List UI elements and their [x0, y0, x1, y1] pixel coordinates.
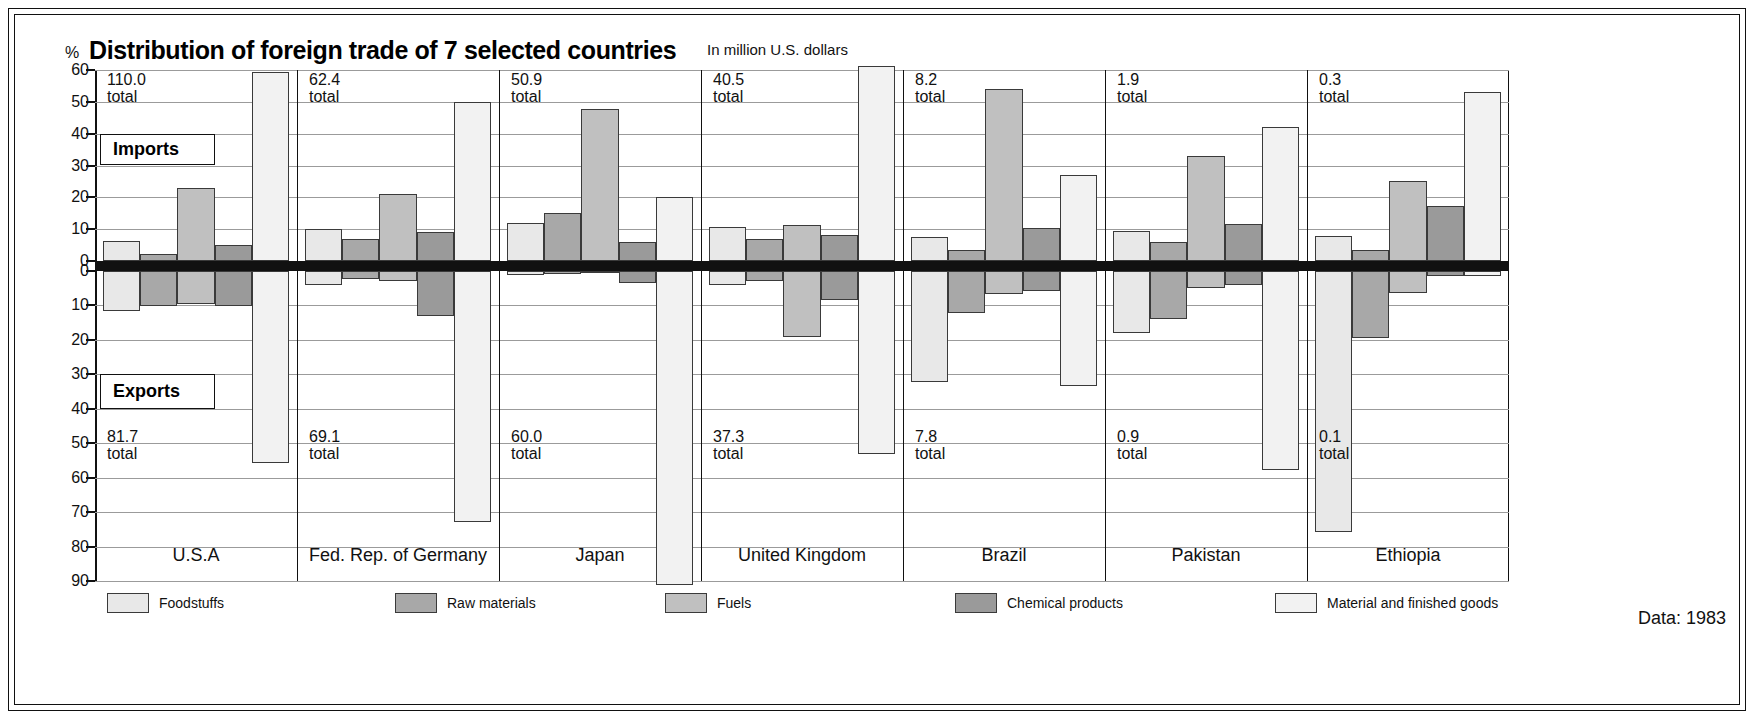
- export-bar: [1464, 271, 1501, 276]
- group-separator: [499, 70, 500, 581]
- y-axis-tick-mark: [86, 196, 95, 198]
- imports-total-label: 62.4total: [309, 72, 340, 106]
- export-bar: [821, 271, 858, 300]
- imports-total-value: 110.0: [107, 71, 146, 88]
- imports-total-value: 50.9: [511, 71, 542, 88]
- legend-label: Material and finished goods: [1327, 595, 1498, 611]
- legend-swatch: [1275, 593, 1317, 613]
- legend-label: Chemical products: [1007, 595, 1123, 611]
- export-bar: [858, 271, 895, 454]
- export-bar: [1060, 271, 1097, 386]
- imports-total-value: 8.2: [915, 71, 937, 88]
- import-bar: [417, 232, 454, 261]
- exports-total-suffix: total: [511, 445, 541, 462]
- imports-total-label: 50.9total: [511, 72, 542, 106]
- export-bar: [783, 271, 820, 337]
- export-bar: [656, 271, 693, 585]
- country-label: Fed. Rep. of Germany: [309, 545, 487, 566]
- group-separator: [1105, 70, 1106, 581]
- export-bar: [1113, 271, 1150, 333]
- import-bar: [379, 194, 416, 261]
- country-label: Pakistan: [1171, 545, 1240, 566]
- exports-total-suffix: total: [915, 445, 945, 462]
- exports-total-suffix: total: [1117, 445, 1147, 462]
- export-bar: [948, 271, 985, 313]
- group-separator: [297, 70, 298, 581]
- country-label: Ethiopia: [1375, 545, 1440, 566]
- import-bar: [783, 225, 820, 261]
- imports-badge-label: Imports: [113, 139, 179, 160]
- export-bar: [305, 271, 342, 285]
- import-bar: [1352, 250, 1389, 261]
- import-bar: [1187, 156, 1224, 261]
- page-subtitle: In million U.S. dollars: [707, 41, 848, 58]
- imports-total-suffix: total: [107, 88, 137, 105]
- imports-total-suffix: total: [309, 88, 339, 105]
- export-bar: [215, 271, 252, 306]
- legend-item: Foodstuffs: [107, 593, 224, 613]
- export-bar: [342, 271, 379, 279]
- y-axis-tick-mark: [86, 580, 95, 582]
- country-label: Japan: [575, 545, 624, 566]
- country-label: Brazil: [981, 545, 1026, 566]
- imports-total-value: 40.5: [713, 71, 744, 88]
- export-bar: [1315, 271, 1352, 532]
- exports-total-value: 37.3: [713, 428, 744, 445]
- zero-axis-band: [95, 261, 1509, 271]
- imports-total-label: 40.5total: [713, 72, 744, 106]
- group-separator: [701, 70, 702, 581]
- imports-total-label: 8.2total: [915, 72, 945, 106]
- import-bar: [342, 239, 379, 261]
- import-bar: [1389, 181, 1426, 261]
- legend-swatch: [955, 593, 997, 613]
- imports-badge: Imports: [100, 134, 215, 166]
- export-bar: [1427, 271, 1464, 276]
- y-axis-tick-mark: [86, 228, 95, 230]
- exports-total-value: 60.0: [511, 428, 542, 445]
- exports-total-value: 0.9: [1117, 428, 1139, 445]
- imports-total-label: 1.9total: [1117, 72, 1147, 106]
- legend-swatch: [395, 593, 437, 613]
- country-label: United Kingdom: [738, 545, 866, 566]
- imports-total-value: 1.9: [1117, 71, 1139, 88]
- imports-total-label: 110.0total: [107, 72, 146, 106]
- import-bar: [177, 188, 214, 261]
- y-axis-tick-mark: [86, 69, 95, 71]
- import-bar: [454, 102, 491, 261]
- y-axis-tick-mark: [86, 373, 95, 375]
- exports-total-value: 7.8: [915, 428, 937, 445]
- import-bar: [1464, 92, 1501, 261]
- import-bar: [746, 239, 783, 261]
- country-label: U.S.A: [172, 545, 219, 566]
- imports-total-value: 0.3: [1319, 71, 1341, 88]
- import-bar: [858, 66, 895, 261]
- y-axis-tick-mark: [86, 339, 95, 341]
- y-axis-tick-mark: [86, 165, 95, 167]
- export-bar: [619, 271, 656, 283]
- export-bar: [177, 271, 214, 304]
- export-bar: [746, 271, 783, 281]
- export-bar: [507, 271, 544, 275]
- import-bar: [1427, 206, 1464, 261]
- gridline: [95, 512, 1509, 513]
- import-bar: [656, 197, 693, 261]
- import-bar: [544, 213, 581, 261]
- import-bar: [252, 72, 289, 261]
- export-bar: [252, 271, 289, 463]
- import-bar: [581, 109, 618, 261]
- export-bar: [103, 271, 140, 311]
- legend-swatch: [665, 593, 707, 613]
- exports-total-label: 37.3total: [713, 429, 744, 463]
- imports-total-suffix: total: [1319, 88, 1349, 105]
- exports-total-label: 0.9total: [1117, 429, 1147, 463]
- imports-total-label: 0.3total: [1319, 72, 1349, 106]
- y-axis-tick-mark: [86, 442, 95, 444]
- legend-item: Material and finished goods: [1275, 593, 1498, 613]
- export-bar: [544, 271, 581, 274]
- export-bar: [140, 271, 177, 306]
- import-bar: [1113, 231, 1150, 261]
- export-bar: [1150, 271, 1187, 319]
- legend-swatch: [107, 593, 149, 613]
- export-bar: [1352, 271, 1389, 338]
- export-bar: [417, 271, 454, 316]
